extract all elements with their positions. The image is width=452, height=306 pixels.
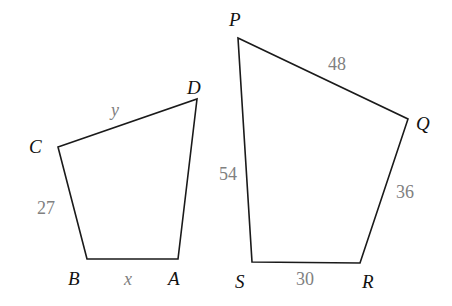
- vertex-label-b: B: [68, 268, 80, 289]
- quadrilateral-pqrs-outline: [238, 38, 408, 263]
- side-label-cd: y: [109, 100, 119, 120]
- quadrilateral-pqrs: P Q R S 48 36 30 54: [219, 9, 430, 292]
- vertex-label-c: C: [29, 136, 42, 157]
- vertex-label-q: Q: [416, 113, 430, 134]
- side-label-ps: 54: [219, 164, 237, 184]
- vertex-label-r: R: [361, 271, 374, 292]
- side-label-pq: 48: [328, 54, 346, 74]
- vertex-label-p: P: [228, 9, 241, 30]
- vertex-label-d: D: [186, 77, 201, 98]
- side-label-ba: x: [123, 269, 132, 289]
- side-label-qr: 36: [396, 182, 414, 202]
- quadrilateral-abcd: C D B A y 27 x: [29, 77, 201, 289]
- diagram-canvas: C D B A y 27 x P Q R S 48 36 30 54: [0, 0, 452, 306]
- diagram-svg: C D B A y 27 x P Q R S 48 36 30 54: [0, 0, 452, 306]
- vertex-label-s: S: [235, 271, 245, 292]
- side-label-sr: 30: [296, 269, 314, 289]
- vertex-label-a: A: [166, 268, 180, 289]
- side-label-bc: 27: [37, 198, 55, 218]
- quadrilateral-abcd-outline: [58, 99, 197, 259]
